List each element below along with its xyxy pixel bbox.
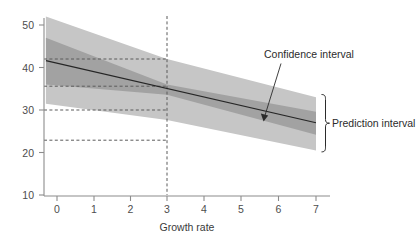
x-tick-label-1: 1 bbox=[91, 203, 97, 215]
x-tick-label-7: 7 bbox=[313, 203, 319, 215]
x-tick-label-0: 0 bbox=[54, 203, 60, 215]
y-tick-label-30: 30 bbox=[22, 104, 34, 116]
chart-svg: 50 40 30 20 10 0 1 2 3 4 5 6 7 bbox=[0, 0, 419, 240]
x-tick-label-4: 4 bbox=[201, 203, 207, 215]
y-tick-label-50: 50 bbox=[22, 19, 34, 31]
y-tick-label-10: 10 bbox=[22, 189, 34, 201]
y-tick-label-40: 40 bbox=[22, 62, 34, 74]
x-axis-title: Growth rate bbox=[160, 221, 215, 233]
x-tick-label-3: 3 bbox=[164, 203, 170, 215]
prediction-interval-annotation-label: Prediction interval bbox=[332, 117, 415, 129]
x-tick-label-6: 6 bbox=[276, 203, 282, 215]
confidence-interval-annotation-label: Confidence interval bbox=[264, 48, 354, 60]
regression-interval-chart: 50 40 30 20 10 0 1 2 3 4 5 6 7 bbox=[0, 0, 419, 240]
x-tick-label-2: 2 bbox=[128, 203, 134, 215]
x-tick-label-5: 5 bbox=[238, 203, 244, 215]
y-tick-label-20: 20 bbox=[22, 147, 34, 159]
